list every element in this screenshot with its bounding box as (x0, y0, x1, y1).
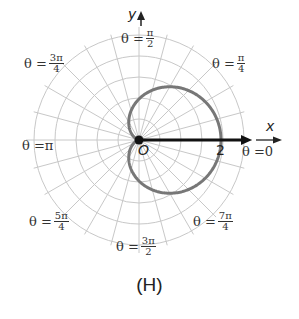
angle-prefix: θ = (22, 138, 45, 153)
angle-prefix: θ = (24, 56, 47, 71)
angle-prefix: θ = (121, 31, 144, 46)
angle-label-pi-over-2: θ = π2 (121, 28, 154, 49)
y-axis-arrow (137, 11, 145, 26)
x-axis-arrow (139, 135, 252, 145)
angle-denominator: 4 (53, 64, 59, 74)
angle-label-pi-over-4: θ = π4 (212, 53, 245, 74)
angle-fraction: 5π4 (54, 211, 69, 232)
tick-label-2: 2 (216, 142, 225, 158)
angle-denominator: 4 (238, 64, 244, 74)
angle-label-3pi-over-2: θ = 3π2 (116, 236, 156, 257)
figure-caption: (H) (0, 274, 299, 296)
angle-fraction: π4 (237, 53, 246, 74)
angle-denominator: 4 (58, 222, 64, 232)
angle-label-7pi-over-4: θ = 7π4 (193, 211, 233, 232)
angle-label-5pi-over-4: θ = 5π4 (29, 211, 69, 232)
angle-prefix: θ = (193, 214, 216, 229)
angle-fraction: π2 (146, 28, 155, 49)
angle-prefix: θ = (242, 144, 265, 159)
angle-prefix: θ = (116, 239, 139, 254)
angle-prefix: θ = (29, 214, 52, 229)
angle-fraction: 3π2 (141, 236, 156, 257)
angle-denominator: 4 (222, 222, 228, 232)
angle-fraction: 3π4 (49, 53, 64, 74)
angle-denominator: 2 (147, 39, 153, 49)
origin-label: O (138, 142, 149, 158)
angle-fraction: 7π4 (218, 211, 233, 232)
angle-value: 0 (265, 144, 273, 159)
angle-label-pi: θ = π (22, 138, 53, 153)
angle-denominator: 2 (145, 247, 151, 257)
angle-label-3pi-over-4: θ = 3π4 (24, 53, 64, 74)
x-axis-label: x (266, 118, 274, 134)
x-axis-secondary-arrow (256, 137, 282, 144)
angle-prefix: θ = (212, 56, 235, 71)
y-axis-label: y (128, 6, 136, 22)
angle-value: π (45, 138, 54, 153)
angle-label-0: θ = 0 (242, 144, 273, 159)
